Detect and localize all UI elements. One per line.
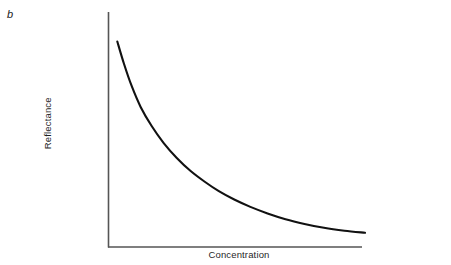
reflectance-decay-curve (117, 42, 365, 233)
x-axis-label: Concentration (108, 250, 370, 260)
y-axis-label: Reflectance (43, 38, 53, 208)
reflectance-concentration-plot (0, 0, 451, 265)
figure-panel-b: b Concentration Reflectance (0, 0, 451, 265)
